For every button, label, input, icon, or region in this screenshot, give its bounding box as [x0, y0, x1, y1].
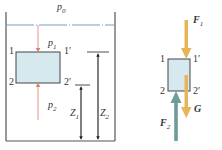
z1-label: Z1	[70, 108, 79, 121]
z2-label: Z2	[100, 108, 109, 121]
corner-1prime-label: 1′	[64, 46, 71, 56]
fb-corner-2prime-label: 2′	[193, 86, 200, 96]
corner-2prime-label: 2′	[64, 77, 71, 87]
p2-label: p2	[48, 100, 57, 113]
p0-label: p0	[57, 2, 66, 15]
f1-label: F1	[193, 15, 203, 28]
p1-label: p1	[48, 38, 57, 51]
f2-label: F2	[160, 118, 170, 131]
f1-arrow	[181, 20, 192, 59]
submerged-block	[16, 52, 60, 83]
fb-corner-1-label: 1	[160, 54, 165, 64]
fb-corner-2-label: 2	[160, 86, 165, 96]
z2-dimension	[87, 52, 109, 139]
fb-corner-1prime-label: 1′	[193, 54, 200, 64]
corner-1-label: 1	[9, 46, 14, 56]
diagram-canvas	[0, 0, 222, 150]
f2-arrow	[171, 91, 182, 141]
weight-label: G	[194, 104, 201, 114]
corner-2-label: 2	[9, 77, 14, 87]
